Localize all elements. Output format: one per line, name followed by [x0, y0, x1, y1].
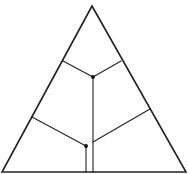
upper-right-branch-line — [93, 61, 121, 77]
upper-node — [91, 75, 95, 79]
lower-right-branch-line — [93, 109, 150, 142]
lower-left-branch-line — [32, 117, 86, 146]
lower-node — [84, 144, 88, 148]
triangle-diagram — [0, 0, 188, 174]
upper-left-branch-line — [63, 61, 93, 77]
outer-triangle — [2, 6, 186, 172]
